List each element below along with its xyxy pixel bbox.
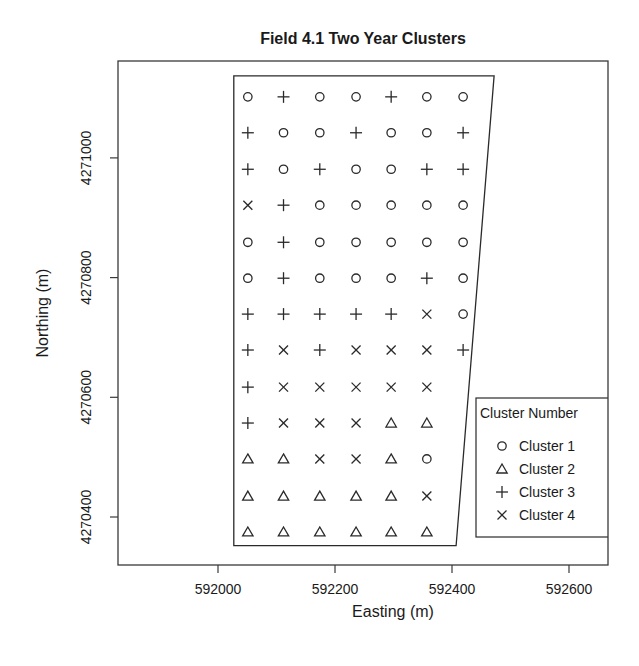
point-cluster-2-triangle-icon bbox=[315, 527, 325, 536]
point-cluster-2-triangle-icon bbox=[351, 527, 361, 536]
point-cluster-1-circle-icon bbox=[423, 455, 431, 463]
point-cluster-4-cross-icon bbox=[387, 383, 396, 392]
point-cluster-2-triangle-icon bbox=[278, 454, 288, 463]
point-cluster-3-plus-icon bbox=[314, 163, 326, 175]
point-cluster-1-circle-icon bbox=[352, 93, 360, 101]
point-cluster-2-triangle-icon bbox=[315, 491, 325, 500]
point-cluster-4-cross-icon bbox=[279, 346, 288, 355]
x-axis-label: Easting (m) bbox=[352, 603, 434, 620]
point-cluster-2-triangle-icon bbox=[278, 527, 288, 536]
point-cluster-1-circle-icon bbox=[387, 274, 395, 282]
y-axis: 4270400427060042708004271000 bbox=[78, 130, 118, 544]
x-tick-label: 592000 bbox=[195, 581, 242, 597]
point-cluster-3-plus-icon bbox=[242, 344, 254, 356]
point-cluster-4-cross-icon bbox=[243, 201, 252, 210]
point-cluster-3-plus-icon bbox=[457, 127, 469, 139]
point-cluster-1-circle-icon bbox=[352, 165, 360, 173]
point-cluster-3-plus-icon bbox=[457, 344, 469, 356]
point-cluster-1-circle-icon bbox=[423, 238, 431, 246]
point-cluster-1-circle-icon bbox=[423, 201, 431, 209]
point-cluster-1-circle-icon bbox=[244, 274, 252, 282]
point-cluster-3-plus-icon bbox=[242, 417, 254, 429]
point-cluster-2-triangle-icon bbox=[422, 418, 432, 427]
point-cluster-3-plus-icon bbox=[421, 163, 433, 175]
point-cluster-4-cross-icon bbox=[352, 383, 361, 392]
point-cluster-2-triangle-icon bbox=[243, 454, 253, 463]
point-cluster-4-cross-icon bbox=[315, 383, 324, 392]
y-tick-label: 4271000 bbox=[78, 130, 94, 185]
point-cluster-1-circle-icon bbox=[244, 93, 252, 101]
point-cluster-3-plus-icon bbox=[314, 344, 326, 356]
point-cluster-1-circle-icon bbox=[423, 93, 431, 101]
point-cluster-4-cross-icon bbox=[352, 419, 361, 428]
cluster-scatter-chart: Field 4.1 Two Year Clusters Cluster Numb… bbox=[0, 0, 639, 666]
point-cluster-1-circle-icon bbox=[459, 201, 467, 209]
point-cluster-1-circle-icon bbox=[244, 238, 252, 246]
point-cluster-2-triangle-icon bbox=[386, 527, 396, 536]
point-cluster-3-plus-icon bbox=[242, 381, 254, 393]
point-cluster-3-plus-icon bbox=[278, 272, 290, 284]
point-cluster-3-plus-icon bbox=[350, 127, 362, 139]
chart-title: Field 4.1 Two Year Clusters bbox=[260, 30, 466, 47]
point-cluster-3-plus-icon bbox=[457, 163, 469, 175]
point-cluster-1-circle-icon bbox=[459, 93, 467, 101]
point-cluster-4-cross-icon bbox=[315, 419, 324, 428]
point-cluster-1-circle-icon bbox=[316, 238, 324, 246]
point-cluster-3-plus-icon bbox=[242, 163, 254, 175]
point-cluster-1-circle-icon bbox=[387, 238, 395, 246]
point-cluster-3-plus-icon bbox=[278, 308, 290, 320]
point-cluster-3-plus-icon bbox=[350, 308, 362, 320]
point-cluster-1-circle-icon bbox=[316, 93, 324, 101]
y-tick-label: 4270400 bbox=[78, 490, 94, 545]
point-cluster-1-circle-icon bbox=[279, 129, 287, 137]
point-cluster-1-circle-icon bbox=[387, 165, 395, 173]
point-cluster-2-triangle-icon bbox=[386, 491, 396, 500]
legend: Cluster Number Cluster 1Cluster 2Cluster… bbox=[476, 398, 616, 537]
point-cluster-3-plus-icon bbox=[314, 308, 326, 320]
point-cluster-1-circle-icon bbox=[459, 274, 467, 282]
x-tick-label: 592200 bbox=[312, 581, 359, 597]
point-cluster-1-circle-icon bbox=[387, 201, 395, 209]
point-cluster-2-triangle-icon bbox=[422, 527, 432, 536]
point-cluster-1-circle-icon bbox=[459, 238, 467, 246]
point-cluster-2-triangle-icon bbox=[386, 454, 396, 463]
y-tick-label: 4270600 bbox=[78, 370, 94, 425]
point-cluster-2-triangle-icon bbox=[243, 527, 253, 536]
point-cluster-1-circle-icon bbox=[352, 274, 360, 282]
point-cluster-2-triangle-icon bbox=[243, 491, 253, 500]
point-cluster-1-circle-icon bbox=[387, 129, 395, 137]
point-cluster-3-plus-icon bbox=[278, 199, 290, 211]
point-cluster-3-plus-icon bbox=[421, 272, 433, 284]
point-cluster-1-circle-icon bbox=[316, 201, 324, 209]
point-cluster-4-cross-icon bbox=[279, 383, 288, 392]
point-cluster-4-cross-icon bbox=[422, 383, 431, 392]
legend-label: Cluster 1 bbox=[519, 438, 575, 454]
point-cluster-1-circle-icon bbox=[279, 165, 287, 173]
point-cluster-3-plus-icon bbox=[242, 308, 254, 320]
point-cluster-1-circle-icon bbox=[316, 129, 324, 137]
field-boundary bbox=[234, 76, 494, 546]
x-axis: 592000592200592400592600 bbox=[195, 565, 593, 597]
point-cluster-4-cross-icon bbox=[422, 492, 431, 501]
point-cluster-1-circle-icon bbox=[316, 274, 324, 282]
legend-title: Cluster Number bbox=[480, 405, 578, 421]
point-cluster-2-triangle-icon bbox=[386, 418, 396, 427]
point-cluster-4-cross-icon bbox=[279, 419, 288, 428]
point-cluster-3-plus-icon bbox=[278, 236, 290, 248]
point-cluster-2-triangle-icon bbox=[351, 491, 361, 500]
point-cluster-3-plus-icon bbox=[385, 308, 397, 320]
x-tick-label: 592600 bbox=[546, 581, 593, 597]
point-cluster-1-circle-icon bbox=[459, 310, 467, 318]
y-tick-label: 4270800 bbox=[78, 250, 94, 305]
data-points bbox=[242, 91, 469, 536]
point-cluster-1-circle-icon bbox=[352, 238, 360, 246]
point-cluster-4-cross-icon bbox=[352, 346, 361, 355]
point-cluster-4-cross-icon bbox=[422, 346, 431, 355]
point-cluster-2-triangle-icon bbox=[278, 491, 288, 500]
point-cluster-3-plus-icon bbox=[242, 127, 254, 139]
legend-label: Cluster 2 bbox=[519, 461, 575, 477]
point-cluster-4-cross-icon bbox=[352, 454, 361, 463]
point-cluster-4-cross-icon bbox=[422, 310, 431, 319]
point-cluster-4-cross-icon bbox=[315, 454, 324, 463]
point-cluster-1-circle-icon bbox=[423, 129, 431, 137]
